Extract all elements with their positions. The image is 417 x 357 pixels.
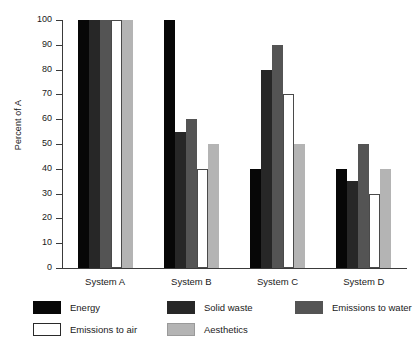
- y-axis-tick-label: 30: [42, 188, 52, 199]
- legend-label: Emissions to air: [70, 324, 137, 336]
- bar: [347, 181, 358, 268]
- bar: [186, 119, 197, 268]
- bar: [111, 20, 122, 268]
- bar: [78, 20, 89, 268]
- bar: [272, 45, 283, 268]
- bar: [89, 20, 100, 268]
- legend-swatch: [167, 323, 195, 336]
- y-axis-tick-label: 60: [42, 113, 52, 124]
- y-axis-tick-label: 100: [37, 14, 52, 25]
- bar: [122, 20, 133, 268]
- bar: [197, 169, 208, 268]
- y-axis-tick-label: 40: [42, 163, 52, 174]
- legend-swatch: [33, 301, 61, 314]
- y-axis-tick-label: 70: [42, 88, 52, 99]
- chart-legend: EnergySolid wasteEmissions to waterEmiss…: [33, 301, 413, 349]
- legend-swatch: [33, 323, 61, 336]
- legend-item: Emissions to water: [295, 301, 412, 314]
- legend-label: Aesthetics: [204, 324, 248, 336]
- x-axis-category-label: System C: [235, 276, 321, 288]
- y-axis-tick-label: 20: [42, 212, 52, 223]
- legend-item: Aesthetics: [167, 323, 248, 336]
- bar: [100, 20, 111, 268]
- bar: [261, 70, 272, 268]
- legend-item: Energy: [33, 301, 100, 314]
- legend-label: Emissions to water: [332, 302, 412, 314]
- bar-chart-figure: Percent of A 0102030405060708090100 Syst…: [0, 0, 417, 357]
- legend-label: Solid waste: [204, 302, 253, 314]
- x-axis-category-label: System D: [321, 276, 407, 288]
- y-axis-tick-label: 90: [42, 39, 52, 50]
- legend-label: Energy: [70, 302, 100, 314]
- bar: [294, 144, 305, 268]
- legend-swatch: [295, 301, 323, 314]
- bars-layer: [62, 20, 407, 268]
- bar: [283, 94, 294, 268]
- y-axis-tick-label: 0: [47, 262, 52, 273]
- bar: [380, 169, 391, 268]
- bar: [250, 169, 261, 268]
- bar: [336, 169, 347, 268]
- y-axis-tick-label: 80: [42, 64, 52, 75]
- bar: [164, 20, 175, 268]
- y-axis-title: Percent of A: [13, 65, 23, 185]
- legend-swatch: [167, 301, 195, 314]
- legend-item: Solid waste: [167, 301, 253, 314]
- x-axis-category-label: System A: [62, 276, 148, 288]
- legend-item: Emissions to air: [33, 323, 137, 336]
- y-axis-tick-label: 50: [42, 138, 52, 149]
- x-axis-spine: [62, 268, 407, 269]
- y-axis-tick-label: 10: [42, 237, 52, 248]
- y-axis-tick: 0: [56, 268, 62, 269]
- bar: [208, 144, 219, 268]
- plot-region: Percent of A 0102030405060708090100 Syst…: [0, 0, 417, 300]
- bar: [175, 132, 186, 268]
- bar: [358, 144, 369, 268]
- bar: [369, 194, 380, 268]
- x-axis-category-label: System B: [148, 276, 234, 288]
